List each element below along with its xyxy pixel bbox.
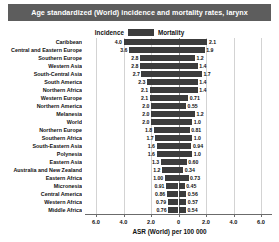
mortality-value-label: 1.4 xyxy=(199,78,206,86)
category-label: South-Central Asia xyxy=(0,70,82,78)
mortality-value-label: 0.55 xyxy=(188,102,198,110)
chart-row: World2.01.0 xyxy=(0,118,279,126)
x-axis-title: ASR (World) per 100 000 xyxy=(0,228,279,235)
incidence-value-label: 1.8 xyxy=(145,126,152,134)
incidence-bar xyxy=(147,79,179,85)
chart-row: Southern Africa1.71.0 xyxy=(0,134,279,142)
incidence-value-label: 2.8 xyxy=(131,54,138,62)
incidence-bar xyxy=(166,183,179,189)
chart-row: Polynesia1.61.0 xyxy=(0,150,279,158)
incidence-value-label: 0.76 xyxy=(156,206,166,214)
mortality-bar xyxy=(179,207,186,213)
mortality-bar xyxy=(179,87,198,93)
mortality-bar xyxy=(179,167,184,173)
mortality-value-label: 0.71 xyxy=(190,94,200,102)
category-label: World xyxy=(0,118,82,126)
incidence-value-label: 2.0 xyxy=(142,102,149,110)
category-label: South-Eastern Asia xyxy=(0,142,82,150)
axis-tick-label: 4.0 xyxy=(230,219,238,225)
chart-row: Western Africa0.790.57 xyxy=(0,198,279,206)
incidence-value-label: 0.86 xyxy=(155,190,165,198)
chart-row: Northern Europe1.80.81 xyxy=(0,126,279,134)
incidence-value-label: 1.7 xyxy=(146,134,153,142)
category-label: Western Asia xyxy=(0,62,82,70)
incidence-bar xyxy=(162,167,179,173)
legend-swatch xyxy=(128,29,154,36)
chart-page: Age standardized (World) incidence and m… xyxy=(0,0,279,242)
chart-row: Australia and New Zealand1.20.34 xyxy=(0,166,279,174)
incidence-bar xyxy=(124,39,179,45)
category-label: Central and Eastern Europe xyxy=(0,46,82,54)
category-label: Eastern Asia xyxy=(0,158,82,166)
chart-row: Middle Africa0.760.54 xyxy=(0,206,279,214)
incidence-value-label: 0.91 xyxy=(154,182,164,190)
mortality-bar xyxy=(179,199,187,205)
axis-tick-label: 6.0 xyxy=(257,219,265,225)
mortality-bar xyxy=(179,159,187,165)
category-label: South America xyxy=(0,78,82,86)
incidence-value-label: 2.8 xyxy=(131,62,138,70)
chart-row: Northern Africa2.11.4 xyxy=(0,86,279,94)
incidence-bar xyxy=(151,111,179,117)
category-label: Australia and New Zealand xyxy=(0,166,82,174)
mortality-value-label: 0.54 xyxy=(187,206,197,214)
incidence-value-label: 1.3 xyxy=(152,158,159,166)
incidence-bar xyxy=(168,207,178,213)
chart-row: Melanesia2.01.2 xyxy=(0,110,279,118)
chart-legend: Incidence Mortality xyxy=(0,26,279,38)
incidence-value-label: 2.1 xyxy=(141,94,148,102)
axis-tick xyxy=(124,214,125,217)
incidence-bar xyxy=(155,135,178,141)
mortality-bar xyxy=(179,119,193,125)
mortality-value-label: 1.0 xyxy=(194,118,201,126)
incidence-value-label: 2.0 xyxy=(142,118,149,126)
chart-row: Central America0.860.56 xyxy=(0,190,279,198)
incidence-bar xyxy=(168,199,179,205)
incidence-bar xyxy=(161,159,179,165)
chart-row: Caribbean4.02.1 xyxy=(0,38,279,46)
mortality-value-label: 0.81 xyxy=(191,126,201,134)
mortality-bar xyxy=(179,127,190,133)
axis-tick xyxy=(96,214,97,217)
incidence-value-label: 1.2 xyxy=(153,166,160,174)
incidence-bar xyxy=(154,127,179,133)
incidence-bar xyxy=(167,191,179,197)
chart-row: Eastern Asia1.30.60 xyxy=(0,158,279,166)
legend-label-incidence: Incidence xyxy=(95,29,124,36)
category-label: Middle Africa xyxy=(0,206,82,214)
incidence-value-label: 3.6 xyxy=(120,46,127,54)
category-label: Polynesia xyxy=(0,150,82,158)
chart-row: Eastern Africa1.000.73 xyxy=(0,174,279,182)
axis-tick-label: 2.0 xyxy=(147,219,155,225)
incidence-value-label: 2.0 xyxy=(142,110,149,118)
mortality-bar xyxy=(179,143,192,149)
chart-row: South-Central Asia2.71.7 xyxy=(0,70,279,78)
mortality-bar xyxy=(179,95,189,101)
mortality-value-label: 1.2 xyxy=(197,110,204,118)
mortality-value-label: 1.0 xyxy=(194,134,201,142)
axis-tick xyxy=(179,214,180,217)
chart-row: Northern America2.00.55 xyxy=(0,102,279,110)
chart-row: South-Eastern Asia1.60.94 xyxy=(0,142,279,150)
mortality-value-label: 0.73 xyxy=(190,174,200,182)
category-label: Western Europe xyxy=(0,94,82,102)
chart-row: Central and Eastern Europe3.61.9 xyxy=(0,46,279,54)
mortality-value-label: 1.4 xyxy=(199,62,206,70)
axis-tick xyxy=(151,214,152,217)
mortality-value-label: 0.34 xyxy=(185,166,195,174)
incidence-bar xyxy=(150,95,179,101)
category-label: Micronesia xyxy=(0,182,82,190)
mortality-value-label: 1.0 xyxy=(194,150,201,158)
mortality-bar xyxy=(179,103,187,109)
incidence-bar xyxy=(151,103,179,109)
legend-label-mortality: Mortality xyxy=(158,29,184,36)
incidence-value-label: 1.00 xyxy=(153,174,163,182)
mortality-bar xyxy=(179,111,196,117)
chart-title-bar: Age standardized (World) incidence and m… xyxy=(8,4,271,21)
chart-row: Southern Europe2.81.2 xyxy=(0,54,279,62)
axis-tick-label: 6.0 xyxy=(92,219,100,225)
mortality-value-label: 0.45 xyxy=(186,182,196,190)
mortality-bar xyxy=(179,71,202,77)
category-label: Caribbean xyxy=(0,38,82,46)
mortality-value-label: 0.94 xyxy=(193,142,203,150)
